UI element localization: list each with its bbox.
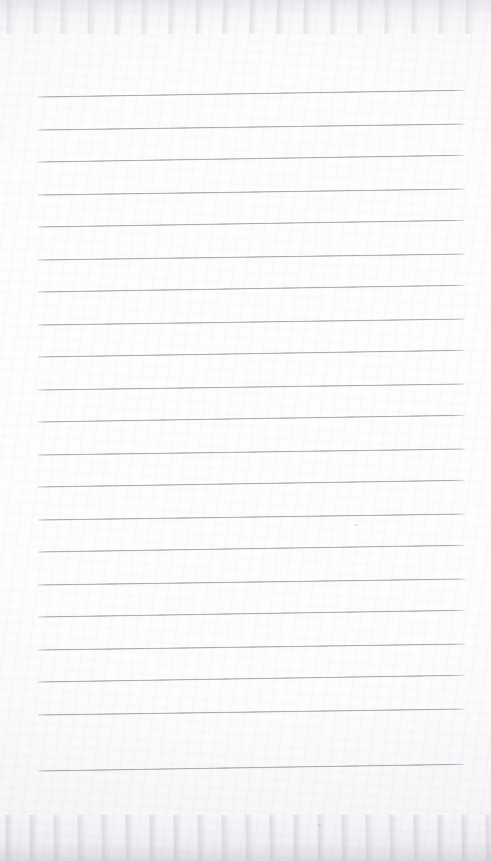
scanned-page <box>0 0 491 861</box>
writing-area[interactable] <box>38 80 465 780</box>
